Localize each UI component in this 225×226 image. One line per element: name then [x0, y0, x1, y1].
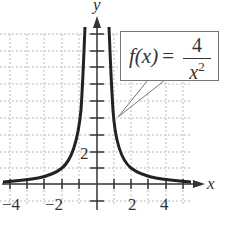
- callout-pointer: [118, 80, 165, 117]
- chart: f(x)= 4 x2 y x −4 −2 2 4 2: [0, 0, 225, 226]
- x-tick-label-4: 4: [160, 196, 169, 213]
- y-axis-label: y: [93, 0, 101, 13]
- y-tick-label-2: 2: [80, 145, 89, 162]
- denominator: x2: [183, 59, 211, 84]
- x-tick-label-neg2: −2: [45, 196, 63, 213]
- equals-sign: =: [162, 44, 174, 68]
- x-tick-label-neg4: −4: [2, 196, 20, 213]
- fraction: 4 x2: [183, 34, 211, 84]
- exponent: 2: [198, 59, 205, 74]
- x-axis-label: x: [207, 175, 215, 192]
- numerator: 4: [183, 34, 211, 59]
- x-tick-label-2: 2: [128, 196, 137, 213]
- denominator-base: x: [189, 61, 198, 83]
- function-label: f(x)=: [129, 44, 178, 69]
- function-name: f(x): [129, 44, 158, 68]
- function-label-box: f(x)= 4 x2: [120, 31, 219, 81]
